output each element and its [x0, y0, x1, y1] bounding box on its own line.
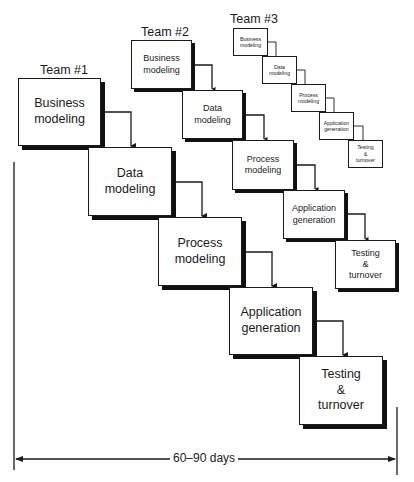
- team-3-phase-data-modeling: Datamodeling: [262, 56, 297, 84]
- team-2-phase-data-modeling: Datamodeling: [182, 90, 243, 139]
- team-1-phase-application-generation: Applicationgeneration: [229, 287, 313, 355]
- timeline-duration-label: 60–90 days: [170, 451, 238, 465]
- phase-label: modeling: [194, 115, 231, 126]
- phase-label: Process: [245, 154, 282, 165]
- phase-label: Application: [240, 305, 301, 321]
- phase-label: modeling: [34, 112, 85, 128]
- team-1-phase-process-modeling: Processmodeling: [158, 217, 242, 286]
- phase-label: Application: [292, 203, 336, 214]
- phase-label: modeling: [175, 252, 226, 268]
- team-2-phase-process-modeling: Processmodeling: [232, 140, 294, 190]
- team-1-phase-data-modeling: Datamodeling: [88, 147, 172, 216]
- phase-label: generation: [292, 215, 336, 226]
- phase-label: modeling: [269, 70, 290, 77]
- rad-waterfall-diagram: Team #1 Team #2 Team #3 Businessmodeling…: [0, 0, 414, 482]
- phase-label: turnover: [318, 398, 364, 414]
- team-3-phase-business-modeling: Businessmodeling: [233, 28, 268, 56]
- team-3-label: Team #3: [230, 12, 278, 26]
- phase-label: Data: [105, 166, 156, 182]
- phase-label: modeling: [298, 98, 319, 105]
- team-2-phase-business-modeling: Businessmodeling: [131, 40, 192, 89]
- phase-label: Business: [34, 96, 85, 112]
- team-3-phase-application-generation: Applicationgeneration: [319, 112, 354, 140]
- team-2-phase-testing-turnover: Testing&turnover: [335, 240, 396, 289]
- phase-label: modeling: [143, 65, 180, 76]
- phase-label: modeling: [105, 182, 156, 198]
- phase-label: generation: [240, 321, 301, 337]
- team-1-phase-business-modeling: Businessmodeling: [18, 78, 101, 146]
- phase-label: generation: [324, 126, 349, 133]
- team-2-phase-application-generation: Applicationgeneration: [283, 190, 345, 239]
- team-3-phase-process-modeling: Processmodeling: [291, 84, 326, 112]
- phase-label: Testing: [356, 144, 375, 151]
- phase-label: &: [349, 259, 382, 270]
- phase-label: Business: [143, 53, 180, 64]
- phase-label: Data: [194, 103, 231, 114]
- phase-label: turnover: [349, 270, 382, 281]
- phase-label: turnover: [356, 157, 375, 164]
- phase-label: modeling: [245, 165, 282, 176]
- phase-label: &: [318, 383, 364, 399]
- phase-label: Testing: [349, 248, 382, 259]
- team-3-phase-testing-turnover: Testing&turnover: [348, 140, 383, 168]
- phase-label: Testing: [318, 367, 364, 383]
- team-1-label: Team #1: [40, 63, 88, 77]
- phase-label: modeling: [240, 42, 261, 49]
- team-1-phase-testing-turnover: Testing&turnover: [299, 356, 383, 425]
- team-2-label: Team #2: [141, 25, 189, 39]
- phase-label: Process: [175, 236, 226, 252]
